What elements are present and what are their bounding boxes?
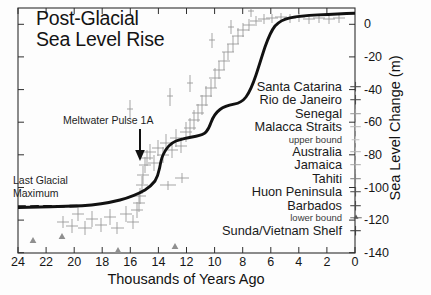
y-tick-n100: -100 [364, 181, 389, 195]
legend-item-australia[interactable]: Australia [196, 145, 344, 158]
x-axis-label: Thousands of Years Ago [107, 271, 264, 287]
legend-item-huon-peninsula[interactable]: Huon Peninsula [196, 185, 344, 198]
legend-label: Rio de Janeiro [259, 93, 342, 106]
legend: Santa Catarina Rio de Janeiro Senegal Ma… [196, 80, 344, 237]
y-tick-n140: -140 [364, 246, 389, 260]
legend-item-jamaica[interactable]: Jamaica [196, 158, 344, 171]
y-tick-n40: -40 [364, 83, 382, 97]
legend-label: Barbados [287, 199, 342, 212]
title-line-2: Sea Level Rise [36, 29, 164, 50]
legend-label: Huon Peninsula [252, 185, 342, 198]
x-tick-16: 16 [123, 255, 137, 269]
y-tick-n80: -80 [364, 148, 382, 162]
legend-label: lower bound [290, 212, 342, 224]
y-tick-n120: -120 [364, 213, 389, 227]
x-tick-8: 8 [239, 255, 246, 269]
legend-label: Sunda/Vietnam Shelf [222, 224, 342, 237]
x-tick-24: 24 [11, 255, 25, 269]
page-title: Post-Glacial Sea Level Rise [36, 8, 164, 50]
legend-item-senegal[interactable]: Senegal [196, 107, 344, 120]
x-tick-12: 12 [180, 255, 194, 269]
legend-item-santa-catarina[interactable]: Santa Catarina [196, 80, 344, 93]
legend-label: Santa Catarina [257, 80, 342, 93]
legend-item-tahiti[interactable]: Tahiti [196, 172, 344, 185]
x-tick-20: 20 [67, 255, 81, 269]
x-tick-10: 10 [208, 255, 222, 269]
legend-item-lower-bound[interactable]: lower bound [196, 212, 344, 224]
y-tick-n20: -20 [364, 50, 382, 64]
x-tick-0: 0 [352, 255, 359, 269]
x-tick-18: 18 [95, 255, 109, 269]
annotation-meltwater-pulse-1a: Meltwater Pulse 1A [63, 114, 153, 126]
y-axis-label: Sea Level Change (m) [387, 55, 403, 200]
legend-label: Jamaica [294, 158, 342, 171]
legend-item-sunda-vietnam-shelf[interactable]: Sunda/Vietnam Shelf [196, 224, 344, 237]
x-tick-4: 4 [295, 255, 302, 269]
y-tick-0: 0 [364, 17, 371, 31]
title-line-1: Post-Glacial [36, 8, 164, 29]
lgm-line-1: Last Glacial [13, 174, 68, 187]
sea-level-rise-chart: Post-Glacial Sea Level Rise Meltwater Pu… [0, 0, 431, 295]
legend-item-malacca-straits[interactable]: Malacca Straits [196, 120, 344, 133]
legend-label: Australia [292, 145, 342, 158]
legend-label: Tahiti [312, 172, 342, 185]
legend-item-barbados[interactable]: Barbados [196, 199, 344, 212]
legend-label: Malacca Straits [255, 120, 342, 133]
legend-label: Senegal [295, 107, 342, 120]
annotation-last-glacial-maximum: Last Glacial Maximum [13, 174, 68, 199]
y-tick-n60: -60 [364, 115, 382, 129]
legend-item-rio-de-janeiro[interactable]: Rio de Janeiro [196, 93, 344, 106]
x-tick-14: 14 [151, 255, 165, 269]
lgm-line-2: Maximum [13, 187, 68, 200]
x-tick-6: 6 [267, 255, 274, 269]
x-tick-22: 22 [39, 255, 53, 269]
x-tick-2: 2 [323, 255, 330, 269]
